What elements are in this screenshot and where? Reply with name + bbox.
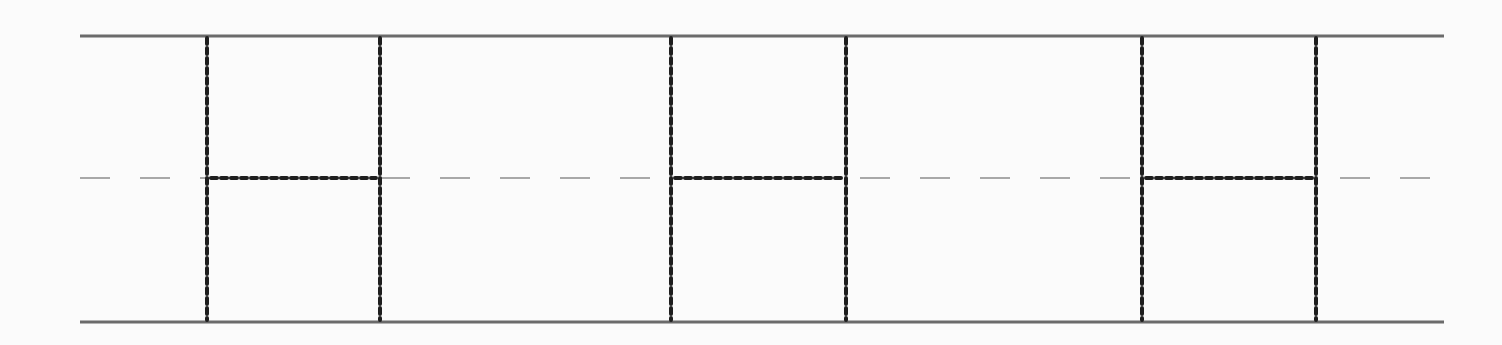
background [0,0,1502,345]
diagram-canvas [0,0,1502,345]
